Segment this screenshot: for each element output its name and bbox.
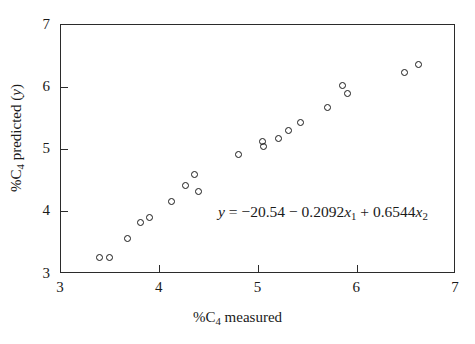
data-point <box>401 69 408 76</box>
equation-lhs: y <box>218 203 225 220</box>
x-axis-tick-label: 7 <box>440 279 470 296</box>
y-axis-title-prefix: %C <box>8 169 24 192</box>
x-axis-tick <box>357 265 358 272</box>
data-point <box>195 188 202 195</box>
equation-term1-operator: − <box>285 203 302 220</box>
equation-equals: = <box>225 203 242 220</box>
y-axis-title-subscript: 4 <box>14 164 26 169</box>
data-point <box>106 254 113 261</box>
data-point <box>285 127 292 134</box>
data-point <box>137 219 144 226</box>
data-point <box>96 254 103 261</box>
equation-term1-coefficient: 0.2092 <box>302 203 345 220</box>
x-axis-tick <box>258 265 259 272</box>
equation-term2-subscript: 2 <box>422 210 427 222</box>
data-point <box>168 198 175 205</box>
data-point <box>339 82 346 89</box>
data-point <box>324 104 331 111</box>
data-points-layer <box>61 25 454 272</box>
x-axis-title-prefix: %C <box>193 309 216 325</box>
equation-term2-coefficient: 0.6544 <box>373 203 416 220</box>
y-axis-tick-label: 7 <box>26 16 50 33</box>
data-point <box>415 61 422 68</box>
x-axis-tick-label: 6 <box>341 279 371 296</box>
y-axis-tick-label: 6 <box>26 78 50 95</box>
y-axis-tick <box>61 87 68 88</box>
x-axis-tick-label: 5 <box>243 279 273 296</box>
y-axis-title: %C4 predicted (y) <box>8 38 26 238</box>
data-point <box>191 171 198 178</box>
x-axis-tick-label: 4 <box>144 279 174 296</box>
y-axis-title-suffix: ) <box>8 84 24 89</box>
data-point <box>297 119 304 126</box>
equation-intercept: −20.54 <box>241 203 285 220</box>
y-axis-tick-label: 4 <box>26 202 50 219</box>
data-point <box>146 214 153 221</box>
y-axis-tick <box>61 211 68 212</box>
data-point <box>275 135 282 142</box>
data-point <box>124 235 131 242</box>
y-axis-tick <box>61 149 68 150</box>
data-point <box>260 143 267 150</box>
y-axis-tick-label: 5 <box>26 140 50 157</box>
x-axis-tick <box>159 265 160 272</box>
scatter-plot-figure: 34567 34567 %C4 measured %C4 predicted (… <box>0 0 475 344</box>
y-axis-tick-label: 3 <box>26 265 50 282</box>
data-point <box>344 90 351 97</box>
equation-term1-variable: x <box>344 203 351 220</box>
data-point <box>182 182 189 189</box>
y-axis-title-mid: predicted ( <box>8 96 24 164</box>
x-axis-title-suffix: measured <box>221 309 282 325</box>
regression-equation-annotation: y = −20.54 − 0.2092x1 + 0.6544x2 <box>218 203 428 222</box>
y-axis-title-variable: y <box>8 89 24 96</box>
data-point <box>235 151 242 158</box>
x-axis-tick-label: 3 <box>45 279 75 296</box>
x-axis-title: %C4 measured <box>0 309 475 327</box>
plot-area <box>60 24 455 273</box>
equation-term2-operator: + <box>356 203 373 220</box>
